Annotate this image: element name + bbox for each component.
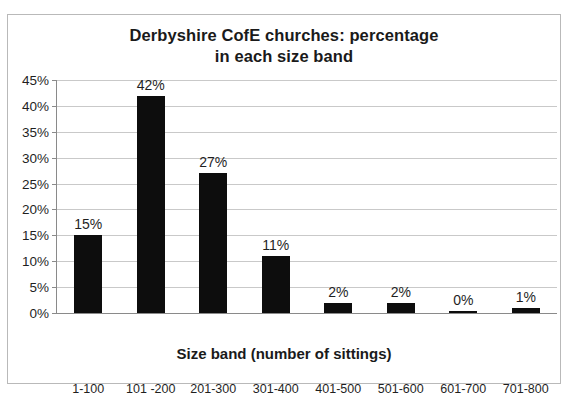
bar-series: 15%1-10042%101 -20027%201-30011%301-4002… [57,80,557,313]
y-axis-tick-label: 15% [22,228,49,243]
y-axis-tick-label: 5% [29,280,49,295]
bar-value-label: 1% [516,289,536,305]
x-axis-tick-label: 701-800 [503,382,549,393]
y-axis-tick-label: 0% [29,306,49,321]
bar-group: 15%1-100 [57,80,120,313]
bar-value-label: 2% [328,284,348,300]
bar[interactable] [137,96,165,313]
bar[interactable] [199,173,227,313]
y-axis-tick-label: 30% [22,150,49,165]
chart-title: Derbyshire CofE churches: percentage in … [8,25,560,67]
x-axis-tick-label: 401-500 [315,382,361,393]
bar-group: 11%301-400 [245,80,308,313]
bar-value-label: 42% [137,77,165,93]
y-axis-tick-label: 45% [22,73,49,88]
plot-area: 0%5%10%15%20%25%30%35%40%45% 15%1-10042%… [57,80,557,313]
bar-group: 27%201-300 [182,80,245,313]
bar[interactable] [74,235,102,313]
x-axis-tick-label: 301-400 [253,382,299,393]
y-axis-tick-label: 10% [22,254,49,269]
y-tick-mark [52,313,57,314]
x-axis-title: Size band (number of sittings) [8,345,560,362]
chart-title-line-2: in each size band [8,46,560,67]
chart-page: Derbyshire CofE churches: percentage in … [0,0,569,393]
chart-title-line-1: Derbyshire CofE churches: percentage [8,25,560,46]
bar-group: 42%101 -200 [120,80,183,313]
y-axis-tick-label: 20% [22,202,49,217]
y-axis-tick-label: 40% [22,98,49,113]
bar-value-label: 0% [453,292,473,308]
x-axis-tick-label: 501-600 [378,382,424,393]
y-axis-tick-label: 35% [22,124,49,139]
bar-group: 0%601-700 [432,80,495,313]
bar-value-label: 11% [262,237,289,253]
bar[interactable] [449,311,477,314]
chart-frame: Derbyshire CofE churches: percentage in … [7,14,561,384]
bar[interactable] [262,256,290,313]
bar[interactable] [387,303,415,313]
x-axis-tick-label: 601-700 [440,382,486,393]
x-axis-tick-label: 101 -200 [126,382,175,393]
bar-value-label: 15% [74,216,102,232]
bar-group: 1%701-800 [495,80,558,313]
bar[interactable] [512,308,540,313]
bar-group: 2%501-600 [370,80,433,313]
bar[interactable] [324,303,352,313]
x-axis-tick-label: 1-100 [72,382,104,393]
x-axis-tick-label: 201-300 [190,382,236,393]
bar-group: 2%401-500 [307,80,370,313]
gridline-0% [57,313,557,314]
bar-value-label: 27% [199,154,227,170]
bar-value-label: 2% [391,284,411,300]
y-axis-tick-label: 25% [22,176,49,191]
